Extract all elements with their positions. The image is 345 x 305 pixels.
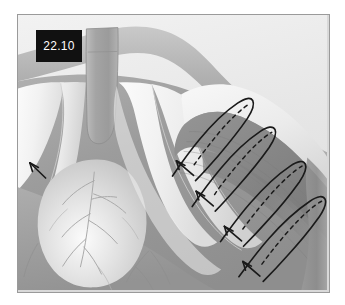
figure-number-label: 22.10: [36, 30, 82, 62]
sternum-body: [86, 28, 118, 144]
figure-frame: 22.10: [17, 14, 330, 293]
screenshot-root: 22.10: [0, 0, 345, 305]
